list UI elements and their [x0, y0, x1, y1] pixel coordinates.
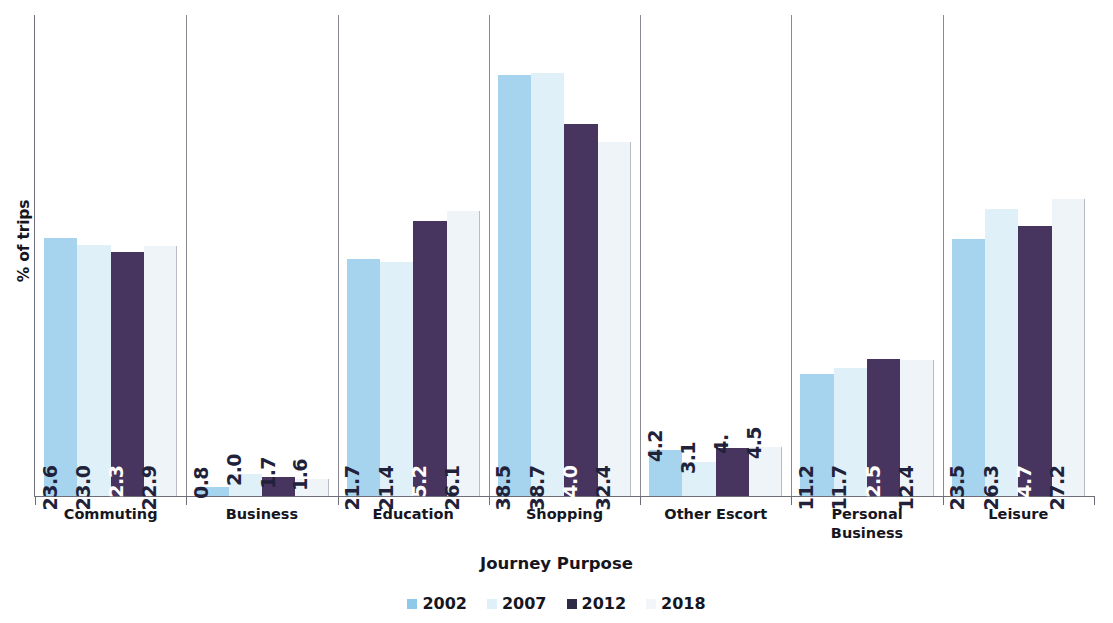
- bar-value-label: 38.5: [492, 466, 514, 511]
- x-axis-tick-label: Personal Business: [791, 505, 942, 543]
- bar-group: 23.623.022.322.9: [35, 15, 186, 496]
- bar-slot: 24.7: [1018, 15, 1051, 496]
- bar-slot: 21.7: [347, 15, 380, 496]
- bar-slot: 1.7: [262, 15, 295, 496]
- x-axis-tick-label: Commuting: [35, 505, 186, 543]
- x-axis-tick: [640, 496, 641, 505]
- x-axis-tick-label: Leisure: [943, 505, 1094, 543]
- x-axis-tick-label: Shopping: [489, 505, 640, 543]
- bar-value-label: 0.8: [190, 467, 212, 499]
- bar[interactable]: 3.1: [682, 462, 715, 496]
- bar-slot: 22.3: [111, 15, 144, 496]
- bar[interactable]: 34.0: [564, 124, 597, 496]
- plot-area: 23.623.022.322.90.82.01.71.621.721.425.2…: [34, 15, 1094, 496]
- bar[interactable]: 27.2: [1052, 199, 1085, 496]
- bar-slot: 38.5: [498, 15, 531, 496]
- legend-label: 2018: [661, 594, 706, 613]
- bar-slot: 1.6: [295, 15, 328, 496]
- legend-swatch-icon: [567, 599, 577, 609]
- bar[interactable]: 38.5: [498, 75, 531, 496]
- bar[interactable]: 23.6: [44, 238, 77, 496]
- bar-slot: 23.5: [952, 15, 985, 496]
- bar-slot: 12.5: [867, 15, 900, 496]
- x-axis-tick: [186, 496, 187, 505]
- legend-swatch-icon: [487, 599, 497, 609]
- bar-groups: 23.623.022.322.90.82.01.71.621.721.425.2…: [35, 15, 1094, 496]
- bar-slot: 23.6: [44, 15, 77, 496]
- legend-label: 2002: [422, 594, 467, 613]
- bar[interactable]: 11.7: [834, 368, 867, 496]
- bars-container: 38.538.734.032.4: [489, 15, 640, 496]
- bars-container: 23.526.324.727.2: [943, 15, 1094, 496]
- bar-value-label: 23.6: [39, 466, 61, 511]
- legend-item[interactable]: 2018: [646, 594, 706, 613]
- bar[interactable]: 32.4: [598, 142, 631, 496]
- bar[interactable]: 11.2: [800, 374, 833, 496]
- bar[interactable]: 2.0: [229, 474, 262, 496]
- chart-legend: 2002200720122018: [0, 594, 1113, 613]
- bar-slot: 23.0: [77, 15, 110, 496]
- bar-group: 23.526.324.727.2: [943, 15, 1094, 496]
- bar-slot: 21.4: [380, 15, 413, 496]
- x-axis-tick: [338, 496, 339, 505]
- bar-value-label: 23.5: [946, 466, 968, 511]
- x-axis-tick-label: Education: [338, 505, 489, 543]
- bar-slot: 26.1: [447, 15, 480, 496]
- bars-container: 0.82.01.71.6: [186, 15, 337, 496]
- bar-slot: 11.2: [800, 15, 833, 496]
- bar[interactable]: 21.4: [380, 262, 413, 496]
- bar-value-label: 11.2: [795, 466, 817, 511]
- bar-value-label: 21.7: [341, 466, 363, 511]
- bar[interactable]: 1.6: [295, 479, 328, 496]
- legend-label: 2007: [502, 594, 547, 613]
- bar-slot: 32.4: [598, 15, 631, 496]
- bars-container: 4.23.14.4.5: [640, 15, 791, 496]
- bars-container: 23.623.022.322.9: [35, 15, 186, 496]
- x-axis-tick-labels: CommutingBusinessEducationShoppingOther …: [35, 505, 1094, 543]
- bar[interactable]: 21.7: [347, 259, 380, 496]
- x-axis-tick: [489, 496, 490, 505]
- bar-slot: 3.1: [682, 15, 715, 496]
- bar[interactable]: 26.3: [985, 209, 1018, 497]
- bar-group: 11.211.712.512.4: [791, 15, 942, 496]
- bar-slot: 26.3: [985, 15, 1018, 496]
- bar-slot: 22.9: [144, 15, 177, 496]
- bar-slot: 38.7: [531, 15, 564, 496]
- bar[interactable]: 22.3: [111, 252, 144, 496]
- x-axis-title: Journey Purpose: [0, 554, 1113, 573]
- bar[interactable]: 4.: [716, 448, 749, 496]
- bar[interactable]: 12.5: [867, 359, 900, 496]
- bar-slot: 25.2: [413, 15, 446, 496]
- bar[interactable]: 38.7: [531, 73, 564, 496]
- y-axis-title: % of trips: [15, 191, 33, 291]
- bar-slot: 4.2: [649, 15, 682, 496]
- bar[interactable]: 1.7: [262, 477, 295, 496]
- bar-slot: 4.: [716, 15, 749, 496]
- bar[interactable]: 0.8: [195, 487, 228, 496]
- bar[interactable]: 23.0: [77, 245, 110, 496]
- bar[interactable]: 23.5: [952, 239, 985, 496]
- bar[interactable]: 24.7: [1018, 226, 1051, 496]
- legend-item[interactable]: 2007: [487, 594, 547, 613]
- bar[interactable]: 26.1: [447, 211, 480, 496]
- bar[interactable]: 22.9: [144, 246, 177, 496]
- bar-chart: % of trips 23.623.022.322.90.82.01.71.62…: [0, 0, 1113, 623]
- legend-swatch-icon: [407, 599, 417, 609]
- bar[interactable]: 25.2: [413, 221, 446, 496]
- bar-group: 0.82.01.71.6: [186, 15, 337, 496]
- bar-value-label: 4.2: [644, 430, 666, 462]
- bar[interactable]: 12.4: [900, 360, 933, 496]
- bars-container: 11.211.712.512.4: [791, 15, 942, 496]
- bars-container: 21.721.425.226.1: [338, 15, 489, 496]
- x-axis-tick-label: Other Escort: [640, 505, 791, 543]
- bar-slot: 4.5: [749, 15, 782, 496]
- legend-label: 2012: [582, 594, 627, 613]
- bar[interactable]: 4.2: [649, 450, 682, 496]
- legend-item[interactable]: 2002: [407, 594, 467, 613]
- bar-slot: 2.0: [229, 15, 262, 496]
- bar-slot: 34.0: [564, 15, 597, 496]
- x-axis-tick: [943, 496, 944, 505]
- legend-item[interactable]: 2012: [567, 594, 627, 613]
- bar[interactable]: 4.5: [749, 447, 782, 496]
- bar-slot: 12.4: [900, 15, 933, 496]
